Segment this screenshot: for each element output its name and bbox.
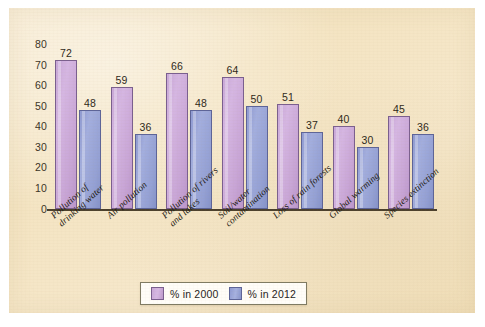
x-axis-category-label: Loss of rain forests: [271, 163, 334, 221]
category-label-line: Loss of rain forests: [271, 163, 333, 220]
x-axis-category-label: Global warming: [327, 170, 382, 221]
paper-canvas: 01020304050607080 7248593666486450513740…: [9, 8, 475, 313]
chart-legend: % in 2000 % in 2012: [140, 282, 307, 305]
category-label-line: Species extinction: [382, 166, 441, 220]
legend-swatch-2000-icon: [151, 287, 164, 300]
x-axis-category-labels: Pollution ofdrinking waterAir pollutionP…: [9, 8, 475, 313]
x-axis-category-label: Species extinction: [382, 166, 441, 221]
plot-area: 01020304050607080 7248593666486450513740…: [9, 8, 475, 313]
x-axis-category-label: Pollution of riversand lakes: [160, 165, 228, 229]
category-label-line: Global warming: [327, 170, 381, 220]
legend-label-2000: % in 2000: [170, 288, 219, 300]
legend-label-2012: % in 2012: [248, 288, 297, 300]
legend-item: % in 2000: [151, 287, 219, 300]
x-axis-category-label: Pollution ofdrinking water: [49, 174, 107, 229]
x-axis-category-label: Air pollution: [105, 179, 150, 221]
category-label-line: Air pollution: [105, 179, 149, 220]
chart-page: 01020304050607080 7248593666486450513740…: [0, 0, 485, 327]
legend-swatch-2012-icon: [229, 287, 242, 300]
legend-item: % in 2012: [229, 287, 297, 300]
